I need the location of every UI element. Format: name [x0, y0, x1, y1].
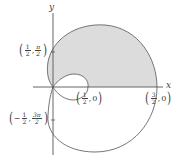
denominator: 2	[22, 119, 28, 125]
denominator: 2	[25, 51, 31, 57]
open-paren: (	[145, 91, 149, 106]
close-paren: )	[167, 91, 171, 106]
fraction: 12	[82, 92, 88, 105]
open-paren: (	[76, 91, 80, 106]
polar-graph	[0, 0, 178, 162]
comma: ,	[32, 47, 35, 55]
open-paren: (	[9, 111, 13, 126]
fraction: 3π2	[32, 112, 42, 125]
close-paren: )	[44, 111, 48, 126]
denominator: 2	[35, 51, 41, 57]
open-paren: (	[19, 43, 23, 58]
fraction: 32	[151, 92, 157, 105]
point-label-half-zero: ( 12 , 0 )	[75, 91, 103, 106]
fraction: π2	[35, 44, 41, 57]
denominator: 2	[151, 99, 157, 105]
close-paren: )	[43, 43, 47, 58]
point-label-neg-half-3pi-over-2: ( − 12 , 3π2 )	[8, 111, 49, 126]
y-axis-label: y	[49, 3, 54, 12]
minus-sign: −	[14, 115, 21, 123]
coordinate-value: 0	[161, 95, 166, 103]
fraction: 12	[22, 112, 28, 125]
shaded-region	[47, 25, 157, 87]
fraction: 12	[25, 44, 31, 57]
point-label-half-pi-over-2: ( 12 , π2 )	[18, 43, 48, 58]
denominator: 2	[34, 119, 40, 125]
point-label-three-halves-zero: ( 32 , 0 )	[144, 91, 172, 106]
comma: ,	[28, 115, 31, 123]
comma: ,	[158, 95, 161, 103]
coordinate-value: 0	[92, 95, 97, 103]
close-paren: )	[98, 91, 102, 106]
comma: ,	[89, 95, 92, 103]
denominator: 2	[82, 99, 88, 105]
